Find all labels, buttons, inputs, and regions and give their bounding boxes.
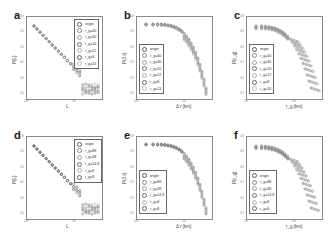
circle-marker-icon xyxy=(252,86,257,91)
circle-marker-icon xyxy=(252,206,257,211)
legend-label: r_g=88 xyxy=(260,180,271,184)
scatter-markers xyxy=(112,0,220,118)
circle-marker-icon xyxy=(142,180,147,185)
legend-entry: r_g=30 xyxy=(77,34,96,41)
circle-marker-icon xyxy=(252,47,257,52)
circle-marker-icon xyxy=(142,73,147,78)
legend-label: r_g=12 xyxy=(85,49,96,53)
legend-label: origin xyxy=(85,142,94,146)
circle-marker-icon xyxy=(77,61,82,66)
legend-label: r_g=88 xyxy=(85,149,96,153)
legend-entry: r_g=88 xyxy=(77,148,99,155)
legend-entry: r_g=8 xyxy=(77,174,99,181)
circle-marker-icon xyxy=(252,186,257,191)
legend-label: r_g=30 xyxy=(85,35,96,39)
circle-marker-icon xyxy=(77,35,82,40)
legend: originr_g=88r_g=38r_g=14.8r_g=8r_g=8 xyxy=(249,170,277,214)
legend-entry: r_g=8 xyxy=(142,79,161,86)
legend-entry: r_g=13 xyxy=(142,85,161,92)
legend-label: r_g=8 xyxy=(150,80,159,84)
circle-marker-icon xyxy=(142,53,147,58)
legend-label: origin xyxy=(260,47,269,51)
legend-entry: r_g=8 xyxy=(252,205,274,212)
legend-entry: origin xyxy=(142,46,161,53)
legend-entry: r_g=14.8 xyxy=(252,192,274,199)
legend-entry: r_g=16 xyxy=(252,85,271,92)
legend-label: r_g=16 xyxy=(260,87,271,91)
legend-entry: r_g=16 xyxy=(77,41,96,48)
legend-label: r_g=12 xyxy=(260,73,271,77)
circle-marker-icon xyxy=(77,28,82,33)
circle-marker-icon xyxy=(142,80,147,85)
panel-f: f10⁰10⁻¹10⁻²10⁻³10⁻⁴10⁻⁵10⁰10¹P(r_g)r_g … xyxy=(222,120,330,238)
legend-entry: r_g=12 xyxy=(77,47,96,54)
legend-label: r_g=16 xyxy=(260,67,271,71)
legend-entry: r_g=16 xyxy=(142,66,161,73)
legend-label: r_g=16 xyxy=(85,42,96,46)
legend-label: r_g=12 xyxy=(150,73,161,77)
legend-label: r_g=8 xyxy=(260,200,269,204)
legend-label: r_g=40 xyxy=(85,29,96,33)
circle-marker-icon xyxy=(142,206,147,211)
circle-marker-icon xyxy=(142,66,147,71)
circle-marker-icon xyxy=(252,60,257,65)
legend-entry: r_g=14.8 xyxy=(142,192,164,199)
legend-entry: r_g=88 xyxy=(142,179,164,186)
legend-label: r_g=38 xyxy=(150,187,161,191)
circle-marker-icon xyxy=(252,80,257,85)
legend-entry: origin xyxy=(252,172,274,179)
legend-entry: r_g=38 xyxy=(142,186,164,193)
legend-entry: r_g=40 xyxy=(142,52,161,59)
circle-marker-icon xyxy=(252,193,257,198)
legend-entry: r_g=8 xyxy=(252,199,274,206)
legend: originr_g=88r_g=38r_g=14.8r_g=8r_g=8 xyxy=(74,139,102,183)
circle-marker-icon xyxy=(142,173,147,178)
legend-entry: r_g=8 xyxy=(142,205,164,212)
scatter-markers xyxy=(222,0,330,118)
legend: originr_g=40r_g=30r_g=16r_g=12r_g=8r_g=1… xyxy=(139,44,164,94)
legend-entry: origin xyxy=(252,46,271,53)
panel-e: e10⁰10⁻¹10⁻²10⁻³10⁻⁴10⁻⁵10⁰10¹P(Δ r)Δ r … xyxy=(112,120,220,238)
legend-entry: r_g=13 xyxy=(77,61,96,68)
circle-marker-icon xyxy=(77,22,82,27)
circle-marker-icon xyxy=(77,48,82,53)
legend-label: r_g=8 xyxy=(150,200,159,204)
legend-label: origin xyxy=(85,22,94,26)
circle-marker-icon xyxy=(142,200,147,205)
legend-entry: r_g=16 xyxy=(252,66,271,73)
circle-marker-icon xyxy=(142,47,147,52)
legend: originr_g=40r_g=30r_g=16r_g=12r_g=8r_g=1… xyxy=(249,44,274,94)
legend-label: r_g=8 xyxy=(85,175,94,179)
circle-marker-icon xyxy=(252,200,257,205)
legend-entry: r_g=38 xyxy=(77,154,99,161)
legend-entry: r_g=40 xyxy=(252,52,271,59)
legend-label: r_g=40 xyxy=(150,54,161,58)
legend-label: r_g=14.8 xyxy=(260,193,274,197)
legend-entry: r_g=8 xyxy=(77,167,99,174)
legend-label: r_g=14.8 xyxy=(150,193,164,197)
panel-c: c10⁰10⁻¹10⁻²10⁻³10⁻⁴10⁻⁵10⁰10¹P(r_g)r_g … xyxy=(222,0,330,118)
panel-a: a10⁰10⁻¹10⁻²10⁻³10⁻⁴10⁻⁵10⁰10¹P(L)Lorigi… xyxy=(2,0,110,118)
legend-label: r_g=40 xyxy=(260,54,271,58)
legend-entry: r_g=30 xyxy=(252,59,271,66)
legend-label: r_g=8 xyxy=(260,80,269,84)
legend-label: origin xyxy=(260,174,269,178)
circle-marker-icon xyxy=(142,193,147,198)
legend-entry: r_g=88 xyxy=(252,179,274,186)
circle-marker-icon xyxy=(77,168,82,173)
legend-label: r_g=13 xyxy=(85,62,96,66)
circle-marker-icon xyxy=(77,142,82,147)
legend-label: r_g=38 xyxy=(260,187,271,191)
legend-label: r_g=14.8 xyxy=(85,162,99,166)
panel-b: b10⁰10⁻¹10⁻²10⁻³10⁻⁴10⁻⁵10⁰10¹P(Δ r)Δ r … xyxy=(112,0,220,118)
legend-entry: r_g=8 xyxy=(142,199,164,206)
legend-label: r_g=8 xyxy=(150,207,159,211)
legend-entry: r_g=14.8 xyxy=(77,161,99,168)
legend-label: r_g=13 xyxy=(150,87,161,91)
legend-entry: r_g=8 xyxy=(77,54,96,61)
legend-entry: origin xyxy=(77,141,99,148)
legend-label: r_g=16 xyxy=(150,67,161,71)
panel-d: d10⁰10⁻¹10⁻²10⁻³10⁻⁴10⁻⁵10⁰10¹P(L)Lorigi… xyxy=(2,120,110,238)
legend-entry: origin xyxy=(77,21,96,28)
legend-label: r_g=8 xyxy=(85,55,94,59)
